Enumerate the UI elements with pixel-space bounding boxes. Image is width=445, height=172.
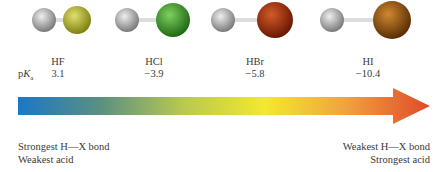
hcl-formula: HCl [129, 56, 179, 68]
left-caption: Strongest H—X bond Weakest acid [18, 141, 110, 166]
hydrogen-atom [32, 8, 56, 32]
hf-pka: 3.1 [33, 68, 83, 80]
hbr-pka: −5.8 [230, 68, 280, 80]
weakest-bond-label: Weakest H—X bond [343, 141, 430, 154]
chlorine-atom [156, 3, 190, 37]
hi-molecule [317, 0, 427, 45]
pka-row-label: pKa [18, 68, 33, 82]
hi-pka: −10.4 [343, 68, 393, 80]
hbr-molecule [208, 0, 308, 45]
hf-molecule [25, 0, 115, 45]
hi-formula: HI [343, 56, 393, 68]
strongest-bond-label: Strongest H—X bond [18, 141, 110, 154]
fluorine-atom [63, 6, 91, 34]
hydrogen-atom [211, 8, 235, 32]
hydrogen-atom [115, 8, 139, 32]
right-caption: Weakest H—X bond Strongest acid [343, 141, 430, 166]
bond-strength-arrow [0, 88, 445, 128]
weakest-acid-label: Weakest acid [18, 154, 110, 167]
iodine-atom [373, 1, 411, 39]
strongest-acid-label: Strongest acid [343, 154, 430, 167]
gradient-arrow [18, 88, 430, 124]
hcl-pka: −3.9 [129, 68, 179, 80]
hcl-molecule [112, 0, 202, 45]
hf-formula: HF [33, 56, 83, 68]
hydrogen-atom [320, 8, 344, 32]
hbr-formula: HBr [230, 56, 280, 68]
bromine-atom [257, 2, 293, 38]
